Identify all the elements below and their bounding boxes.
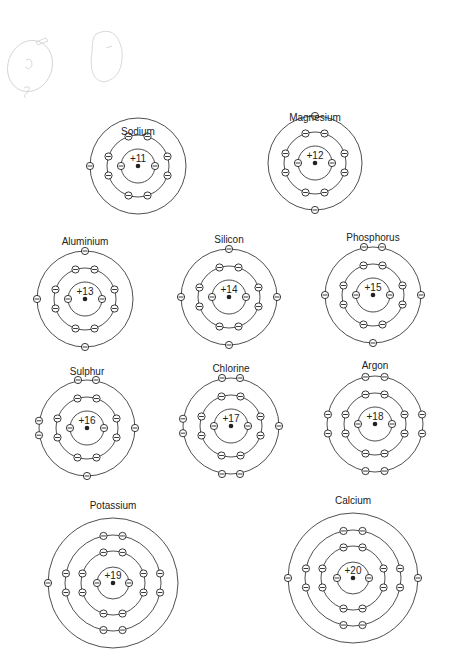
electron-icon	[284, 574, 291, 581]
electron-icon	[282, 150, 289, 157]
electron-icon	[381, 450, 388, 457]
electron-icon	[179, 430, 186, 437]
electron-icon	[236, 374, 243, 381]
electron-icon	[255, 284, 262, 291]
atom-silicon: +14	[177, 245, 280, 348]
electron-icon	[164, 153, 171, 160]
electron-icon	[381, 391, 388, 398]
electron-icon	[79, 570, 86, 577]
electron-icon	[196, 303, 203, 310]
nuclear-charge: +18	[367, 411, 384, 422]
electron-icon	[324, 430, 331, 437]
electron-icon	[62, 589, 69, 596]
electron-icon	[359, 544, 366, 551]
electron-icon	[218, 452, 225, 459]
electron-icon	[342, 430, 349, 437]
pencil-scribbles	[0, 31, 122, 98]
electron-icon	[210, 422, 217, 429]
electron-icon	[98, 295, 105, 302]
electron-icon	[177, 293, 184, 300]
electron-icon	[35, 432, 42, 439]
electron-icon	[119, 626, 126, 633]
electron-icon	[386, 291, 393, 298]
electron-icon	[119, 549, 126, 556]
electron-icon	[93, 395, 100, 402]
electron-icon	[33, 295, 40, 302]
electron-icon	[62, 570, 69, 577]
nucleus-icon	[136, 164, 141, 169]
electron-icon	[131, 424, 138, 431]
electron-icon	[100, 549, 107, 556]
electron-icon	[244, 422, 251, 429]
nuclear-charge: +14	[221, 284, 238, 295]
electron-icon	[113, 434, 120, 441]
electron-icon	[93, 454, 100, 461]
electron-icon	[105, 172, 112, 179]
atom-label-magnesium: Magnesium	[289, 112, 341, 123]
atom-diagram-sheet: +11+12+13+14+15+16+17+18+19+20 SodiumMag…	[0, 0, 453, 668]
electron-icon	[81, 247, 88, 254]
electron-icon	[342, 411, 349, 418]
electron-icon	[100, 610, 107, 617]
electron-icon	[111, 305, 118, 312]
electron-icon	[100, 532, 107, 539]
electron-icon	[380, 565, 387, 572]
electron-icon	[179, 415, 186, 422]
electron-icon	[44, 579, 51, 586]
electron-icon	[236, 470, 243, 477]
nucleus-icon	[227, 295, 232, 300]
electron-icon	[381, 467, 388, 474]
nucleus-icon	[313, 161, 318, 166]
electron-icon	[125, 192, 132, 199]
electron-icon	[235, 264, 242, 271]
electron-icon	[72, 325, 79, 332]
electron-icon	[198, 432, 205, 439]
electron-icon	[52, 305, 59, 312]
electron-icon	[414, 574, 421, 581]
electron-icon	[156, 589, 163, 596]
electron-icon	[396, 584, 403, 591]
nuclear-charge: +13	[77, 286, 94, 297]
atom-label-argon: Argon	[362, 360, 389, 371]
electron-icon	[362, 391, 369, 398]
electron-icon	[282, 169, 289, 176]
nuclear-charge: +15	[365, 282, 382, 293]
electron-icon	[198, 413, 205, 420]
electron-icon	[74, 454, 81, 461]
electron-icon	[35, 417, 42, 424]
electron-icon	[302, 584, 309, 591]
atom-label-chlorine: Chlorine	[212, 363, 249, 374]
electron-icon	[81, 343, 88, 350]
electron-icon	[418, 411, 425, 418]
electron-icon	[378, 243, 385, 250]
electron-icon	[92, 376, 99, 383]
electron-icon	[237, 452, 244, 459]
atom-label-sulphur: Sulphur	[70, 366, 104, 377]
electron-icon	[359, 605, 366, 612]
electron-icon	[257, 432, 264, 439]
electron-icon	[302, 130, 309, 137]
nuclear-charge: +12	[307, 150, 324, 161]
electron-icon	[237, 393, 244, 400]
electron-icon	[399, 301, 406, 308]
electron-icon	[362, 450, 369, 457]
atom-potassium: +19	[44, 518, 178, 648]
electron-icon	[151, 162, 158, 169]
electron-icon	[381, 373, 388, 380]
electron-icon	[369, 339, 376, 346]
electron-icon	[156, 570, 163, 577]
electron-icon	[218, 393, 225, 400]
electron-icon	[111, 286, 118, 293]
electron-icon	[91, 266, 98, 273]
electron-icon	[83, 472, 90, 479]
electron-icon	[117, 162, 124, 169]
diagram-canvas: +11+12+13+14+15+16+17+18+19+20	[0, 0, 453, 668]
electron-icon	[340, 527, 347, 534]
electron-icon	[360, 243, 367, 250]
nucleus-icon	[371, 293, 376, 298]
electron-icon	[208, 293, 215, 300]
electron-icon	[225, 245, 232, 252]
electron-icon	[417, 291, 424, 298]
atom-label-calcium: Calcium	[335, 495, 371, 506]
electron-icon	[52, 286, 59, 293]
